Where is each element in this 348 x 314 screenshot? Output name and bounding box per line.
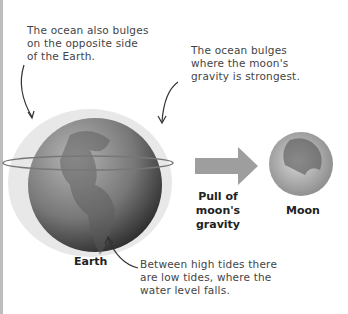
opposite-bulge-pointer [21,65,32,117]
earth-label: Earth [74,255,107,269]
near-bulge-pointer [162,82,178,122]
gravity-arrow [195,147,258,185]
low-tides-note: Between high tides there are low tides, … [140,258,277,297]
pull-of-gravity-label: Pull of moon's gravity [188,190,248,232]
moon-label: Moon [286,204,320,218]
near-bulge-note: The ocean bulges where the moon's gravit… [191,44,300,83]
opposite-bulge-note: The ocean also bulges on the opposite si… [27,24,149,63]
